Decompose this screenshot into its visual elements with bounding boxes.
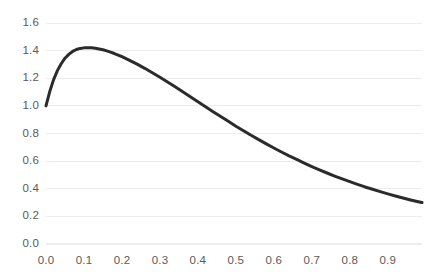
x-tick-label-0.9: 0.9 <box>380 255 397 267</box>
x-tick-label-0.1: 0.1 <box>76 255 93 267</box>
line-chart-plot <box>0 0 435 275</box>
chart-container: 0.00.20.40.60.81.01.21.41.6 0.00.10.20.3… <box>0 0 435 275</box>
y-tick-label-1.0: 1.0 <box>22 100 39 112</box>
y-tick-label-0.6: 0.6 <box>22 155 39 167</box>
x-tick-label-0.4: 0.4 <box>190 255 207 267</box>
y-tick-label-0.4: 0.4 <box>22 183 39 195</box>
x-tick-label-0.7: 0.7 <box>304 255 321 267</box>
series-path-curve <box>46 48 422 203</box>
y-tick-label-1.6: 1.6 <box>22 17 39 29</box>
gridlines <box>46 23 422 244</box>
x-tick-label-0.3: 0.3 <box>152 255 169 267</box>
x-tick-label-0.6: 0.6 <box>266 255 283 267</box>
y-tick-label-1.4: 1.4 <box>22 45 39 57</box>
y-tick-label-0.8: 0.8 <box>22 128 39 140</box>
data-series-line <box>46 48 422 203</box>
y-tick-label-0.2: 0.2 <box>22 211 39 223</box>
x-tick-label-0.0: 0.0 <box>38 255 55 267</box>
y-tick-label-0.0: 0.0 <box>22 238 39 250</box>
x-tick-label-0.8: 0.8 <box>342 255 359 267</box>
y-tick-label-1.2: 1.2 <box>22 73 39 85</box>
x-tick-label-0.5: 0.5 <box>228 255 245 267</box>
x-tick-label-0.2: 0.2 <box>114 255 131 267</box>
